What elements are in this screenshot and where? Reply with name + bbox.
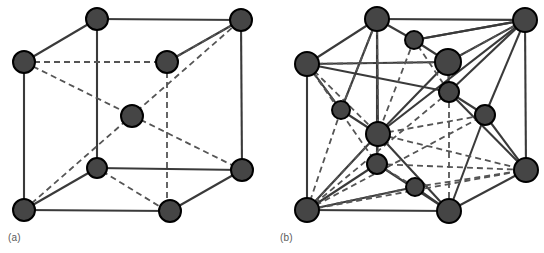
atom-back-bottom-right-node <box>437 199 461 223</box>
atom-front-bottom-left-node <box>87 158 107 178</box>
panel-b-solid-edge-1 <box>377 19 525 20</box>
atom-body-center-node <box>121 105 143 127</box>
atom-body-center-node <box>366 122 390 146</box>
atom-right-face-center-node <box>475 105 495 125</box>
panel-b-caption: (b) <box>280 232 293 243</box>
atom-front-face-center-node <box>367 154 387 174</box>
atom-back-top-right-node <box>435 49 461 75</box>
crystal-lattice-figure <box>0 0 544 253</box>
panel-b-solid-edge-7 <box>307 210 449 211</box>
panel-b-solid-edge-31 <box>377 19 378 134</box>
panel-a-solid-edge-1 <box>97 19 241 20</box>
figure-root: (a) (b) <box>0 0 544 253</box>
atom-front-top-left-node <box>365 7 389 31</box>
atom-front-top-right-node <box>230 9 252 31</box>
atom-front-top-left-node <box>86 8 108 30</box>
atom-back-top-right-node <box>156 51 178 73</box>
atom-left-face-center-node <box>332 101 350 119</box>
atom-front-bottom-right-node <box>231 159 253 181</box>
panel-a-caption: (a) <box>8 232 21 243</box>
atom-front-bottom-right-node <box>514 158 538 182</box>
atom-right-upper-small-node <box>439 82 459 102</box>
atom-front-top-right-node <box>513 8 537 32</box>
figure-background <box>0 0 544 253</box>
atom-bottom-face-center-node <box>406 178 424 196</box>
panel-a-solid-edge-6 <box>24 210 170 211</box>
atom-back-bottom-right-node <box>159 200 181 222</box>
atom-back-bottom-left-node <box>295 198 319 222</box>
atom-back-top-left-node <box>295 52 319 76</box>
atom-top-face-center-node <box>405 31 423 49</box>
panel-a-solid-edge-5 <box>241 20 242 170</box>
atom-back-top-left-node <box>13 51 35 73</box>
atom-back-bottom-left-node <box>13 199 35 221</box>
panel-b-solid-edge-6 <box>525 20 526 170</box>
